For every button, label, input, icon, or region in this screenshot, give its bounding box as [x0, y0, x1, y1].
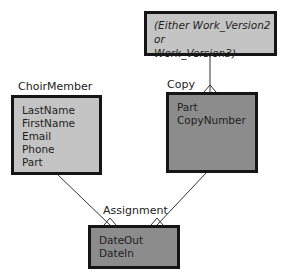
entity-title-choirmember: ChoirMember	[18, 80, 92, 93]
entity-title-assignment: Assignment	[103, 204, 168, 217]
attribute: Email	[22, 130, 75, 143]
copy-attributes: Part CopyNumber	[177, 101, 246, 127]
attribute: FirstName	[22, 117, 75, 130]
note-line-2: Work_Version3)	[154, 46, 274, 60]
attribute: Part	[22, 156, 75, 169]
attribute: DateIn	[99, 247, 143, 260]
attribute: LastName	[22, 104, 75, 117]
choirmember-attributes: LastName FirstName Email Phone Part	[22, 104, 75, 169]
attribute: CopyNumber	[177, 114, 246, 127]
attribute: Phone	[22, 143, 75, 156]
attribute: DateOut	[99, 234, 143, 247]
entity-title-copy: Copy	[167, 78, 195, 91]
line-choirmember-to-assignment	[57, 174, 110, 225]
line-copy-to-assignment	[157, 172, 207, 225]
entity-choirmember: LastName FirstName Email Phone Part	[11, 95, 102, 175]
note-line-1: (Either Work_Version2 or	[154, 18, 274, 46]
entity-assignment: DateOut DateIn	[88, 225, 180, 269]
work-version-note: (Either Work_Version2 or Work_Version3)	[154, 18, 274, 60]
attribute: Part	[177, 101, 246, 114]
entity-work-version: (Either Work_Version2 or Work_Version3)	[144, 11, 277, 56]
assignment-attributes: DateOut DateIn	[99, 234, 143, 260]
entity-copy: Part CopyNumber	[166, 92, 258, 173]
crows-foot-icon	[151, 218, 163, 225]
